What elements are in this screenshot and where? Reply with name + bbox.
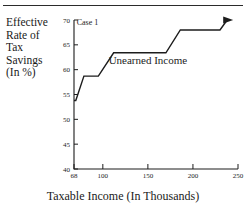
x-axis-title: Taxable Income (In Thousands) [0,189,246,204]
y-tick-label: 70 [63,17,71,25]
x-tick-label: 68 [71,172,79,180]
y-tick-label: 60 [63,66,71,74]
y-tick-label: 45 [63,141,71,149]
chart-plot-area: 40455055606570 68100150200250 Case 1Unea… [0,0,246,208]
chart-annotation: Unearned Income [109,54,188,66]
x-tick-label: 150 [143,172,154,180]
y-tick-label: 50 [63,116,71,124]
chart-annotation: Case 1 [77,18,99,27]
axis-spines [74,20,238,169]
chart-figure: Effective Rate of Tax Savings (In %) 404… [0,0,246,208]
x-tick-label: 250 [233,172,244,180]
y-tick-label: 65 [63,41,71,49]
x-tick-label: 200 [188,172,199,180]
series-arrow-head [223,16,233,23]
y-axis-tick-labels: 40455055606570 [63,17,71,174]
y-tick-label: 55 [63,91,71,99]
y-tick-label: 40 [63,166,71,174]
x-axis-tick-labels: 68100150200250 [71,172,244,180]
x-axis-ticks [74,164,238,169]
chart-annotations: Case 1Unearned Income [77,18,188,66]
x-tick-label: 100 [98,172,109,180]
